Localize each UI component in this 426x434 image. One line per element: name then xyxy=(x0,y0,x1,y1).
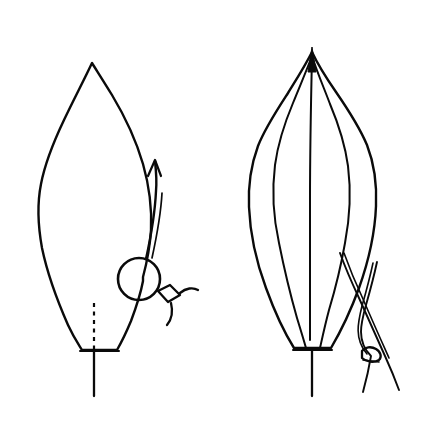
leaf-diagram-figure xyxy=(0,0,426,434)
canvas-background xyxy=(0,0,426,434)
diagram-canvas xyxy=(0,0,426,434)
